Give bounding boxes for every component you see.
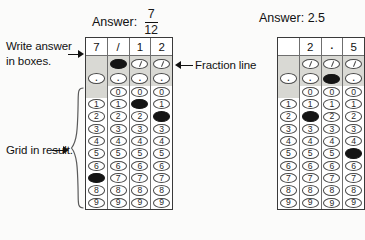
digit-bubble-cell[interactable]: 0 [108, 86, 129, 98]
digit-bubble-cell[interactable]: 6 [108, 160, 129, 172]
bubble-2[interactable]: 2 [110, 111, 127, 121]
bubble-9[interactable]: 9 [88, 198, 105, 208]
grid-column[interactable]: 7.123456789 [86, 38, 108, 209]
digit-bubble-cell[interactable]: 4 [108, 135, 129, 147]
typed-answer-cell[interactable] [278, 38, 299, 56]
typed-answer-cell[interactable]: 2 [300, 38, 321, 56]
bubble-slash[interactable] [302, 59, 319, 69]
bubble-4[interactable]: 4 [88, 136, 105, 146]
digit-bubble-cell[interactable]: 6 [130, 160, 151, 172]
typed-answer-cell[interactable]: / [108, 38, 129, 56]
digit-bubble-cell[interactable]: 8 [86, 184, 107, 196]
digit-bubble-cell[interactable]: 2 [130, 110, 151, 122]
bubble-1[interactable]: 1 [280, 99, 297, 109]
bubble-9[interactable]: 9 [345, 198, 362, 208]
bubble-3[interactable]: 3 [302, 124, 319, 134]
bubble-7[interactable]: 7 [153, 173, 170, 183]
digit-bubble-cell[interactable]: 2 [322, 111, 343, 123]
decimal-point-bubble-cell[interactable]: . [278, 71, 299, 85]
bubble-3[interactable]: 3 [153, 124, 170, 134]
digit-bubble-cell[interactable]: 3 [108, 123, 129, 135]
bubble-3[interactable]: 3 [110, 124, 127, 134]
digit-bubble-cell[interactable]: 2 [86, 110, 107, 122]
bubble-3[interactable]: 3 [280, 124, 297, 134]
bubble-slash[interactable] [345, 59, 362, 69]
grid-column[interactable]: 1.0123456789 [130, 38, 152, 209]
grid-column[interactable]: 2.0123456789 [151, 38, 172, 209]
digit-bubble-cell[interactable]: 7 [108, 172, 129, 184]
digit-bubble-cell[interactable]: 7 [343, 172, 364, 184]
bubble-0[interactable]: 0 [323, 87, 340, 97]
digit-bubble-cell[interactable]: 6 [278, 160, 299, 172]
digit-bubble-cell[interactable]: 6 [151, 160, 172, 172]
bubble-5[interactable]: 5 [88, 148, 105, 158]
digit-bubble-cell[interactable]: 2 [278, 110, 299, 122]
bubble-4[interactable]: 4 [280, 136, 297, 146]
digit-bubble-cell[interactable]: 7 [151, 172, 172, 184]
digit-bubble-cell[interactable]: 4 [130, 135, 151, 147]
typed-answer-cell[interactable]: 2 [151, 38, 172, 56]
bubble-7[interactable]: 7 [345, 173, 362, 183]
bubble-8[interactable]: 8 [323, 185, 340, 195]
decimal-point-bubble-cell[interactable]: . [343, 71, 364, 85]
bubble-slash[interactable] [131, 59, 148, 69]
bubble-6[interactable]: 6 [88, 161, 105, 171]
bubble-0[interactable]: 0 [153, 87, 170, 97]
digit-bubble-cell[interactable]: 4 [86, 135, 107, 147]
digit-bubble-cell[interactable]: 2 [108, 110, 129, 122]
bubble-6[interactable]: 6 [323, 161, 340, 171]
digit-bubble-cell[interactable] [278, 86, 299, 98]
bubble-decimal-point[interactable]: . [88, 73, 105, 83]
bubble-5[interactable]: 5 [280, 148, 297, 158]
bubble-2[interactable]: 2 [88, 111, 105, 121]
digit-bubble-cell[interactable]: 1 [300, 98, 321, 110]
digit-bubble-cell[interactable]: 4 [300, 135, 321, 147]
bubble-0[interactable]: 0 [110, 87, 127, 97]
bubble-0[interactable]: 0 [131, 87, 148, 97]
bubble-0[interactable]: 0 [345, 87, 362, 97]
digit-bubble-cell[interactable]: 3 [86, 123, 107, 135]
digit-bubble-cell[interactable]: 1 [151, 98, 172, 110]
bubble-7[interactable]: 7 [131, 173, 148, 183]
digit-bubble-cell[interactable]: 9 [300, 197, 321, 209]
digit-bubble-cell[interactable]: 9 [278, 197, 299, 209]
decimal-point-bubble-cell[interactable]: . [130, 71, 151, 85]
digit-bubble-cell[interactable]: 5 [86, 147, 107, 159]
digit-bubble-cell[interactable]: 6 [300, 160, 321, 172]
digit-bubble-cell[interactable]: 0 [151, 86, 172, 98]
bubble-5[interactable]: 5 [345, 148, 362, 158]
digit-bubble-cell[interactable]: 2 [300, 110, 321, 122]
bubble-decimal-point[interactable]: . [302, 73, 319, 83]
decimal-point-bubble-cell[interactable]: . [300, 71, 321, 85]
bubble-4[interactable]: 4 [345, 136, 362, 146]
grid-column[interactable]: 5.0123456789 [343, 38, 364, 209]
bubble-0[interactable]: 0 [302, 87, 319, 97]
digit-bubble-cell[interactable]: 1 [86, 98, 107, 110]
decimal-point-bubble-cell[interactable]: . [86, 71, 107, 85]
bubble-4[interactable]: 4 [302, 136, 319, 146]
digit-bubble-cell[interactable]: 6 [343, 160, 364, 172]
bubble-9[interactable]: 9 [302, 198, 319, 208]
digit-bubble-cell[interactable]: 8 [151, 184, 172, 196]
digit-bubble-cell[interactable]: 9 [322, 197, 343, 209]
digit-bubble-cell[interactable]: 2 [151, 110, 172, 122]
digit-bubble-cell[interactable]: 6 [322, 160, 343, 172]
bubble-3[interactable]: 3 [131, 124, 148, 134]
digit-bubble-cell[interactable]: 4 [322, 135, 343, 147]
digit-bubble-cell[interactable]: 1 [343, 98, 364, 110]
bubble-7[interactable]: 7 [323, 173, 340, 183]
bubble-8[interactable]: 8 [302, 185, 319, 195]
typed-answer-cell[interactable]: 7 [86, 38, 107, 56]
digit-bubble-cell[interactable]: 7 [322, 172, 343, 184]
bubble-6[interactable]: 6 [110, 161, 127, 171]
digit-bubble-cell[interactable]: 5 [278, 147, 299, 159]
bubble-9[interactable]: 9 [131, 198, 148, 208]
bubble-8[interactable]: 8 [280, 185, 297, 195]
bubble-4[interactable]: 4 [131, 136, 148, 146]
typed-answer-cell[interactable]: 1 [130, 38, 151, 56]
bubble-1[interactable]: 1 [110, 99, 127, 109]
bubble-9[interactable]: 9 [280, 198, 297, 208]
digit-bubble-cell[interactable]: 8 [278, 184, 299, 196]
bubble-2[interactable]: 2 [153, 111, 170, 121]
digit-bubble-cell[interactable]: 8 [130, 184, 151, 196]
